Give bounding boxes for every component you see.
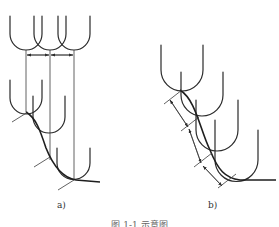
tool-profile [34, 16, 66, 50]
panel-b [161, 45, 276, 188]
tool-profile [10, 16, 42, 50]
tool-profile [57, 148, 90, 180]
diagram-canvas [0, 0, 279, 227]
tool-profile [58, 16, 90, 50]
tool-profile [181, 72, 223, 116]
tool-profile [196, 100, 238, 151]
tool-profile [161, 45, 203, 91]
figure-caption: 图 1-1 示意图 [0, 218, 279, 227]
panel-b-label: b) [208, 200, 217, 210]
panel-a [10, 16, 100, 190]
panel-a-label: a) [57, 200, 66, 210]
workpiece-curve [26, 112, 100, 182]
